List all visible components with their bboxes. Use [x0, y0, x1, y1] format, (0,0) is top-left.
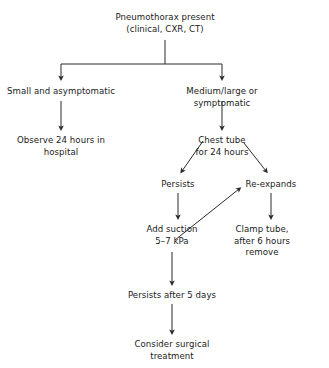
node-observe-24-hours-in-hospital: Observe 24 hours in hospital [17, 135, 105, 158]
node-persists: Persists [161, 179, 194, 191]
node-re-expands: Re-expands [246, 179, 297, 191]
node-medium-large-or-symptomatic: Medium/large or symptomatic [169, 86, 276, 109]
node-add-suction: Add suction 5–7 kPa [146, 224, 197, 247]
node-consider-surgical-treatment: Consider surgical treatment [135, 339, 210, 362]
node-pneumothorax-present: Pneumothorax present (clinical, CXR, CT) [115, 12, 214, 35]
node-clamp-tube-after-6-hours-remove: Clamp tube, after 6 hours remove [229, 224, 296, 259]
node-chest-tube-for-24-hours: Chest tube for 24 hours [196, 135, 249, 158]
node-small-and-asymptomatic: Small and asymptomatic [7, 86, 115, 98]
pneumothorax-flowchart: Pneumothorax present (clinical, CXR, CT)… [0, 0, 329, 368]
node-persists-after-5-days: Persists after 5 days [128, 290, 216, 302]
